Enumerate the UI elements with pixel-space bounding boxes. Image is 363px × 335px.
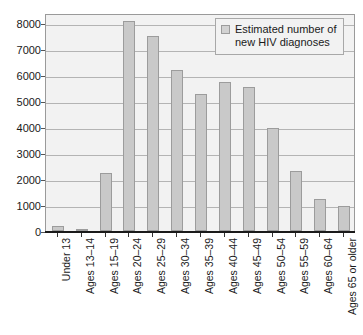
legend: Estimated number ofnew HIV diagnoses	[215, 18, 344, 55]
bar	[338, 206, 350, 231]
y-tick-label: 7000	[17, 45, 41, 56]
y-tick-mark	[41, 128, 45, 129]
bar	[171, 70, 183, 231]
x-axis-labels: Under 13Ages 13–14Ages 15–19Ages 20–24Ag…	[45, 238, 355, 333]
bar	[314, 199, 326, 231]
y-tick-mark	[41, 102, 45, 103]
x-tick-mark	[81, 233, 82, 237]
y-tick-mark	[41, 50, 45, 51]
x-tick-label: Ages 15–19	[109, 238, 120, 294]
x-tick-mark	[128, 233, 129, 237]
legend-label: Estimated number ofnew HIV diagnoses	[235, 23, 337, 49]
x-tick-label: Ages 60–64	[323, 238, 334, 294]
x-tick-mark	[224, 233, 225, 237]
bar	[100, 173, 112, 231]
x-tick-label: Ages 55–59	[299, 238, 310, 294]
bar	[195, 94, 207, 231]
x-tick-mark	[57, 233, 58, 237]
x-tick-label: Ages 45–49	[252, 238, 263, 294]
y-tick-label: 3000	[17, 149, 41, 160]
y-tick-label: 5000	[17, 97, 41, 108]
y-tick-mark	[41, 206, 45, 207]
x-tick-mark	[272, 233, 273, 237]
x-tick-label: Ages 25–29	[156, 238, 167, 294]
x-tick-label: Ages 13–14	[85, 238, 96, 294]
bar	[147, 36, 159, 231]
x-tick-mark	[248, 233, 249, 237]
x-tick-mark	[319, 233, 320, 237]
bar	[267, 128, 279, 231]
y-tick-mark	[41, 154, 45, 155]
x-tick-label: Ages 50–54	[276, 238, 287, 294]
y-tick-label: 2000	[17, 175, 41, 186]
x-tick-mark	[295, 233, 296, 237]
legend-swatch-icon	[221, 25, 230, 34]
y-tick-mark	[41, 76, 45, 77]
x-tick-label: Ages 35–39	[204, 238, 215, 294]
y-tick-label: 1000	[17, 201, 41, 212]
y-tick-mark	[41, 180, 45, 181]
legend-label-line1: Estimated number of	[235, 23, 337, 35]
bar	[290, 171, 302, 231]
y-tick-mark	[41, 24, 45, 25]
bar	[243, 87, 255, 231]
bar	[123, 21, 135, 231]
y-tick-label: 8000	[17, 19, 41, 30]
y-tick-label: 6000	[17, 71, 41, 82]
y-tick-label: 4000	[17, 123, 41, 134]
x-tick-label: Under 13	[61, 238, 72, 281]
x-tick-mark	[105, 233, 106, 237]
y-axis: 010002000300040005000600070008000	[0, 14, 41, 232]
x-tick-label: Ages 40–44	[228, 238, 239, 294]
legend-label-line2: new HIV diagnoses	[235, 36, 330, 48]
x-tick-mark	[343, 233, 344, 237]
x-tick-mark	[176, 233, 177, 237]
x-tick-mark	[200, 233, 201, 237]
bar-chart-figure: 010002000300040005000600070008000 Under …	[0, 0, 363, 335]
y-tick-mark	[41, 232, 45, 233]
x-tick-label: Ages 30–34	[180, 238, 191, 294]
x-tick-label: Ages 20–24	[132, 238, 143, 294]
x-tick-label: Ages 65 or older	[347, 238, 358, 315]
x-tick-mark	[152, 233, 153, 237]
bar	[219, 82, 231, 231]
